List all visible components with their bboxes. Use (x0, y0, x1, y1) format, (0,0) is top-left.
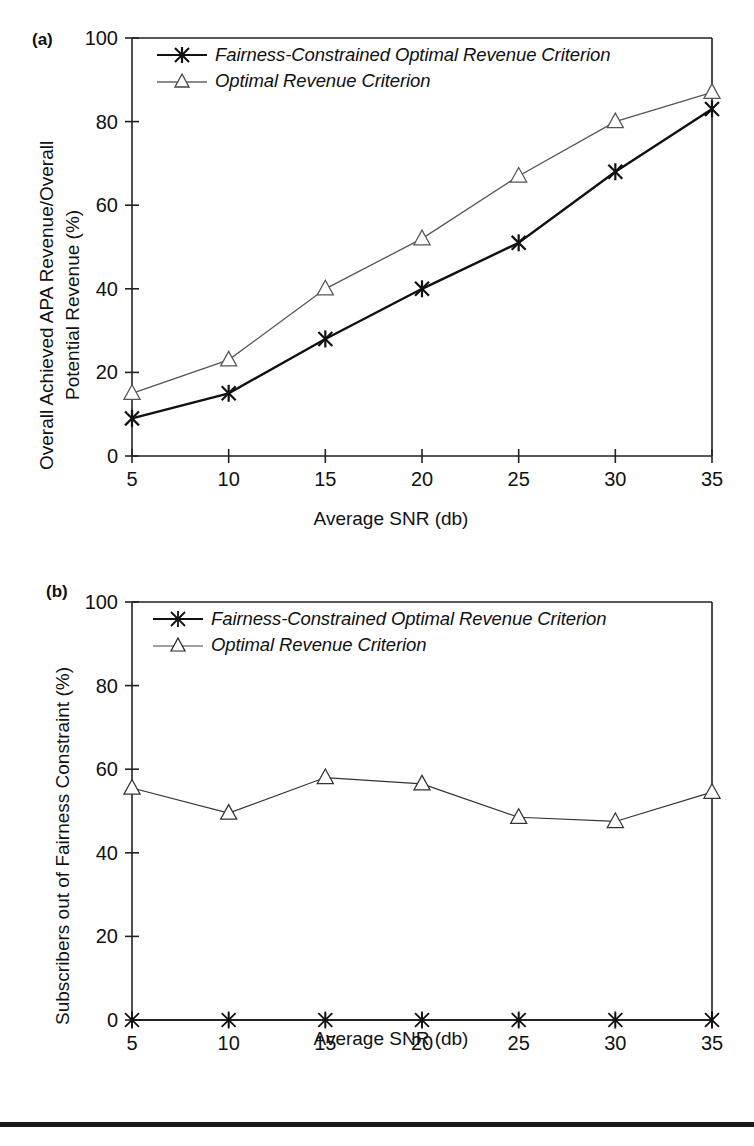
y-tick-label: 80 (96, 111, 118, 133)
star-marker-icon (152, 609, 204, 629)
triangle-marker-icon (124, 385, 140, 400)
x-tick-label: 35 (701, 468, 723, 490)
chart-panel-b: (b) Subscribers out of Fairness Constrai… (0, 560, 754, 1080)
triangle-marker-icon (124, 780, 140, 795)
series-line (132, 109, 712, 418)
x-tick-label: 5 (126, 468, 137, 490)
x-tick-label: 5 (126, 1032, 137, 1054)
y-tick-label: 0 (107, 1009, 118, 1031)
series-fairness-constrained (125, 101, 719, 427)
y-tick-label: 20 (96, 361, 118, 383)
legend-item-b-0[interactable]: Fairness-Constrained Optimal Revenue Cri… (152, 608, 606, 630)
series-optimal-revenue (124, 84, 720, 400)
star-marker-icon (222, 385, 236, 402)
legend-item-a-0[interactable]: Fairness-Constrained Optimal Revenue Cri… (156, 44, 610, 66)
x-tick-label: 20 (411, 1032, 433, 1054)
triangle-marker-icon (704, 784, 720, 799)
legend-item-b-1[interactable]: Optimal Revenue Criterion (152, 634, 606, 656)
x-tick-label: 10 (218, 468, 240, 490)
y-tick-label: 0 (107, 445, 118, 467)
chart-panel-a: (a) Overall Achieved APA Revenue/Overall… (0, 0, 754, 560)
legend-a: Fairness-Constrained Optimal Revenue Cri… (156, 44, 610, 92)
x-tick-label: 25 (508, 468, 530, 490)
series-fairness-constrained (125, 1012, 719, 1029)
triangle-marker-icon (511, 809, 527, 824)
bottom-divider-rule (0, 1122, 754, 1127)
y-tick-label: 100 (85, 27, 118, 49)
series-optimal-revenue (124, 769, 720, 828)
legend-label-a-0: Fairness-Constrained Optimal Revenue Cri… (215, 44, 610, 66)
x-tick-label: 15 (314, 1032, 336, 1054)
triangle-marker-icon (414, 230, 430, 245)
triangle-marker-icon (317, 769, 333, 784)
triangle-marker-icon (317, 280, 333, 295)
y-tick-label: 40 (96, 278, 118, 300)
legend-label-b-0: Fairness-Constrained Optimal Revenue Cri… (211, 608, 606, 630)
star-marker-icon (156, 45, 208, 65)
star-marker-icon (318, 330, 332, 347)
star-marker-icon (705, 101, 719, 118)
y-tick-label: 20 (96, 925, 118, 947)
star-marker-icon (512, 234, 526, 251)
y-tick-label: 40 (96, 842, 118, 864)
figure-page: (a) Overall Achieved APA Revenue/Overall… (0, 0, 754, 1146)
legend-label-b-1: Optimal Revenue Criterion (211, 634, 426, 656)
star-marker-icon (608, 163, 622, 180)
x-tick-label: 30 (604, 1032, 626, 1054)
triangle-marker-icon (704, 84, 720, 99)
triangle-marker-icon (156, 71, 208, 91)
legend-item-a-1[interactable]: Optimal Revenue Criterion (156, 70, 610, 92)
legend-label-a-1: Optimal Revenue Criterion (215, 70, 430, 92)
y-tick-label: 100 (85, 591, 118, 613)
x-tick-label: 10 (218, 1032, 240, 1054)
x-tick-label: 35 (701, 1032, 723, 1054)
x-tick-label: 20 (411, 468, 433, 490)
triangle-marker-icon (511, 167, 527, 182)
x-tick-label: 30 (604, 468, 626, 490)
x-tick-label: 15 (314, 468, 336, 490)
x-tick-label: 25 (508, 1032, 530, 1054)
y-tick-label: 60 (96, 758, 118, 780)
y-tick-label: 60 (96, 194, 118, 216)
triangle-marker-icon (221, 351, 237, 366)
star-marker-icon (125, 410, 139, 427)
y-tick-label: 80 (96, 675, 118, 697)
star-marker-icon (415, 280, 429, 297)
triangle-marker-icon (414, 775, 430, 790)
legend-b: Fairness-Constrained Optimal Revenue Cri… (152, 608, 606, 656)
triangle-marker-icon (152, 635, 204, 655)
